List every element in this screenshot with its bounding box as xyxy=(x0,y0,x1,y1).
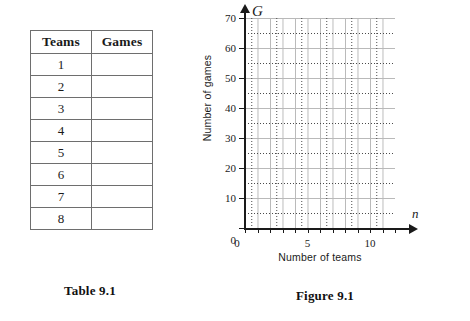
cell-teams: 8 xyxy=(31,208,92,230)
column-header-teams: Teams xyxy=(31,31,92,54)
teams-games-table: Teams Games 1 2 3 4 5 xyxy=(30,30,153,230)
x-tick-mark xyxy=(270,228,271,233)
y-axis-title: Number of games xyxy=(201,33,213,163)
cell-games[interactable] xyxy=(92,208,153,230)
table-row: 3 xyxy=(31,98,153,120)
x-tick-label: 10 xyxy=(358,237,382,249)
y-tick-label: 40 xyxy=(214,102,236,114)
x-tick-label: 5 xyxy=(296,237,320,249)
table-row: 6 xyxy=(31,164,153,186)
figure-caption: Figure 9.1 xyxy=(260,288,390,304)
x-tick-mark xyxy=(245,228,246,233)
y-tick-label: 10 xyxy=(214,192,236,204)
table-body: 1 2 3 4 5 6 7 xyxy=(31,54,153,230)
x-axis-symbol: n xyxy=(412,206,419,222)
cell-games[interactable] xyxy=(92,54,153,76)
cell-teams: 3 xyxy=(31,98,92,120)
cell-teams: 6 xyxy=(31,164,92,186)
x-tick-mark xyxy=(308,228,309,233)
plot-area xyxy=(245,18,395,228)
x-tick-mark xyxy=(383,228,384,233)
table-caption: Table 9.1 xyxy=(30,283,150,299)
y-tick-label: 30 xyxy=(214,132,236,144)
y-tick-label: 70 xyxy=(214,12,236,24)
table-header-row: Teams Games xyxy=(31,31,153,54)
x-axis-arrow-icon xyxy=(409,224,418,234)
y-tick-mark xyxy=(239,138,245,139)
table-row: 2 xyxy=(31,76,153,98)
table-row: 5 xyxy=(31,142,153,164)
cell-games[interactable] xyxy=(92,164,153,186)
x-tick-mark xyxy=(258,228,259,233)
x-tick-mark xyxy=(333,228,334,233)
figure-panel: 0 10 20 30 40 50 60 70 0 5 10 G n Number… xyxy=(190,0,470,321)
table-row: 1 xyxy=(31,54,153,76)
y-tick-mark xyxy=(239,198,245,199)
y-axis-symbol: G xyxy=(252,3,263,20)
y-tick-label: 50 xyxy=(214,72,236,84)
cell-teams: 7 xyxy=(31,186,92,208)
cell-games[interactable] xyxy=(92,76,153,98)
y-tick-mark xyxy=(239,78,245,79)
x-tick-mark xyxy=(358,228,359,233)
y-tick-mark xyxy=(239,48,245,49)
table-row: 7 xyxy=(31,186,153,208)
cell-teams: 1 xyxy=(31,54,92,76)
y-tick-label: 20 xyxy=(214,162,236,174)
cell-teams: 4 xyxy=(31,120,92,142)
y-tick-mark xyxy=(239,108,245,109)
y-tick-mark xyxy=(239,168,245,169)
table-row: 4 xyxy=(31,120,153,142)
x-axis-title: Number of teams xyxy=(230,251,410,263)
table-panel: Teams Games 1 2 3 4 5 xyxy=(0,0,190,321)
cell-teams: 2 xyxy=(31,76,92,98)
y-tick-label: 60 xyxy=(214,42,236,54)
y-axis-arrow-icon xyxy=(240,4,250,13)
cell-games[interactable] xyxy=(92,142,153,164)
x-tick-mark xyxy=(283,228,284,233)
y-tick-mark xyxy=(239,18,245,19)
cell-games[interactable] xyxy=(92,120,153,142)
x-tick-mark xyxy=(395,228,396,233)
x-tick-label: 0 xyxy=(225,237,249,249)
grid-dotted-horizontal-lines xyxy=(245,18,395,228)
x-tick-mark xyxy=(345,228,346,233)
x-tick-mark xyxy=(320,228,321,233)
x-tick-mark xyxy=(295,228,296,233)
table-row: 8 xyxy=(31,208,153,230)
x-tick-mark xyxy=(370,228,371,233)
cell-teams: 5 xyxy=(31,142,92,164)
cell-games[interactable] xyxy=(92,98,153,120)
column-header-games: Games xyxy=(92,31,153,54)
cell-games[interactable] xyxy=(92,186,153,208)
table-header: Teams Games xyxy=(31,31,153,54)
